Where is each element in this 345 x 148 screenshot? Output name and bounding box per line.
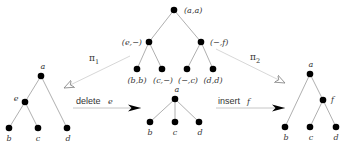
- middle-leaf-node: [147, 119, 154, 126]
- right-root-label: a: [309, 60, 314, 69]
- tree-edit-diagram: (a,a) (e,−) (−,f) (b,b) (c,−) (−,c) (d,d…: [0, 0, 345, 148]
- left-leaf-label: d: [65, 134, 70, 143]
- edge: [9, 102, 25, 128]
- left-inner-node: [22, 99, 29, 106]
- delete-verb: delete: [76, 96, 101, 106]
- left-tree: a e b c d: [6, 62, 71, 143]
- top-right-node: [198, 39, 205, 46]
- edge: [149, 42, 162, 69]
- edge: [175, 99, 199, 122]
- top-root-node: [171, 7, 178, 14]
- middle-root-node: [172, 96, 179, 103]
- right-leaf-label: c: [309, 133, 314, 142]
- top-tree: (a,a) (e,−) (−,f) (b,b) (c,−) (−,c) (d,d…: [122, 6, 229, 85]
- edge: [25, 76, 41, 102]
- delete-operation: delete e: [73, 96, 141, 108]
- edge: [149, 10, 174, 42]
- middle-leaf-label: d: [197, 128, 202, 137]
- insert-verb: insert: [218, 96, 241, 106]
- middle-leaf-label: c: [173, 128, 178, 137]
- edge: [25, 102, 38, 128]
- pi2-subscript: 2: [256, 57, 260, 65]
- delete-arg: e: [108, 97, 113, 106]
- edge: [323, 100, 336, 127]
- left-leaf-node: [35, 125, 42, 132]
- top-leaf-label: (d,d): [203, 76, 222, 85]
- top-leaf-label: (c,−): [153, 76, 173, 85]
- projection-pi1: π 1: [64, 53, 130, 88]
- edge: [41, 76, 67, 128]
- pi1-subscript: 1: [95, 58, 99, 66]
- edge: [310, 74, 323, 100]
- left-inner-label: e: [14, 94, 19, 103]
- right-leaf-node: [282, 124, 289, 131]
- left-leaf-node: [6, 125, 13, 132]
- right-leaf-node: [307, 124, 314, 131]
- edge: [285, 74, 310, 127]
- left-root-label: a: [41, 62, 46, 71]
- middle-leaf-node: [172, 119, 179, 126]
- left-root-node: [38, 73, 45, 80]
- top-left-node: [146, 39, 153, 46]
- insert-operation: insert f: [216, 96, 285, 108]
- top-leaf-node: [210, 66, 217, 73]
- right-leaf-label: b: [283, 133, 288, 142]
- projection-pi2: π 2: [216, 49, 285, 83]
- top-leaf-node: [184, 66, 191, 73]
- left-leaf-node: [64, 125, 71, 132]
- right-inner-node: [320, 97, 327, 104]
- right-tree: a f b c d: [282, 60, 340, 142]
- edge: [187, 42, 201, 69]
- top-leaf-node: [134, 66, 141, 73]
- top-left-label: (e,−): [122, 38, 142, 47]
- top-root-label: (a,a): [184, 6, 202, 15]
- middle-leaf-node: [196, 119, 203, 126]
- middle-root-label: a: [175, 85, 180, 94]
- right-leaf-node: [333, 124, 340, 131]
- top-right-label: (−,f): [210, 38, 228, 47]
- right-root-node: [307, 71, 314, 78]
- right-leaf-label: d: [333, 133, 338, 142]
- top-leaf-node: [159, 66, 166, 73]
- middle-tree: a b c d: [147, 85, 203, 137]
- edge: [150, 99, 175, 122]
- insert-arg: f: [246, 97, 252, 106]
- edge: [310, 100, 323, 127]
- left-leaf-label: c: [36, 134, 41, 143]
- left-leaf-label: b: [6, 134, 11, 143]
- middle-leaf-label: b: [147, 128, 152, 137]
- top-leaf-label: (−,c): [178, 76, 198, 85]
- top-leaf-label: (b,b): [127, 76, 146, 85]
- right-inner-label: f: [330, 95, 336, 104]
